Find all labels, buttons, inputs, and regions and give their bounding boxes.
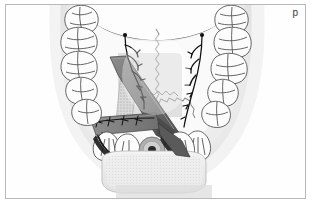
tooth-premolar-1-left — [72, 99, 102, 125]
central-highlight — [122, 35, 190, 115]
figure-page: p — [0, 0, 312, 205]
tooth-molar-1-right — [211, 53, 247, 84]
tooth-premolar-1-right — [202, 101, 231, 127]
dental-illustration — [6, 5, 306, 199]
bone-block-shadow — [116, 185, 212, 199]
panel-label: p — [292, 8, 298, 18]
figure-frame: p — [5, 4, 306, 199]
